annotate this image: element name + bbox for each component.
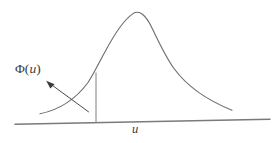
phi-annotation-arrow (46, 81, 88, 112)
phi-function-label: Φ(u) (15, 62, 41, 76)
distribution-diagram (0, 0, 280, 143)
phi-label-prefix: Φ( (15, 61, 29, 76)
phi-label-suffix: ) (36, 61, 41, 76)
baseline-axis (15, 119, 270, 124)
arrow-head (46, 81, 54, 89)
density-curve (40, 12, 232, 114)
axis-label-u: u (132, 123, 138, 136)
figure-container: Φ(u) u (0, 0, 280, 143)
